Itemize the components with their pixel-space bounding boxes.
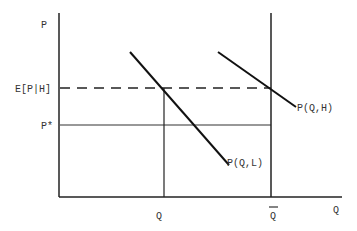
- p-star-label: P*: [41, 121, 53, 132]
- curve-p-q-h: [218, 52, 296, 107]
- curve-p-q-h-label: P(Q,H): [297, 103, 333, 114]
- diagram-canvas: P E[P|H] P* P(Q,H) P(Q,L) Q Q Q: [0, 0, 357, 231]
- y-axis-label: P: [41, 20, 47, 31]
- q-tick-label: Q: [156, 211, 162, 222]
- x-axis-label: Q: [333, 205, 339, 216]
- expected-price-label: E[P|H]: [15, 84, 51, 95]
- curve-p-q-l: [130, 52, 229, 165]
- curve-p-q-l-label: P(Q,L): [227, 158, 263, 169]
- q-bar-tick-label: Q: [270, 211, 276, 222]
